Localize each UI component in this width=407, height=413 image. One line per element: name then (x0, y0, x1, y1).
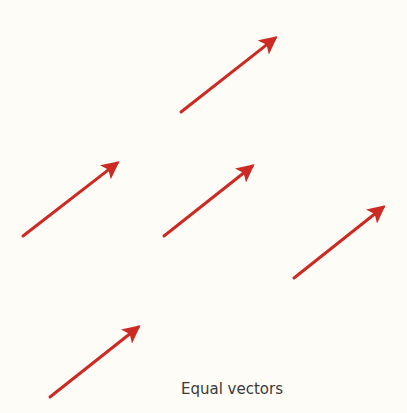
vector-diagram (0, 0, 407, 413)
vector-2-arrow (23, 163, 117, 236)
vector-4-arrow (294, 207, 383, 278)
vector-group (23, 38, 383, 397)
vector-3-arrow (164, 166, 252, 236)
diagram-caption: Equal vectors (0, 380, 407, 398)
vector-1-arrow (181, 38, 275, 112)
